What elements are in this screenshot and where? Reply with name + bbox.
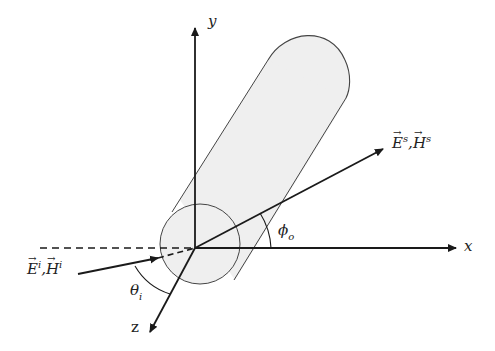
phi-symbol: ϕ [278, 221, 288, 239]
incident-E-superscript: i [38, 259, 41, 270]
scattered-H-symbol: H [413, 136, 426, 151]
y-axis-label: y [208, 14, 216, 29]
scattered-field-label: Es,Hs [392, 136, 431, 151]
incident-field-label: Ei,Hi [27, 262, 62, 277]
incident-H-symbol: H [46, 262, 59, 277]
theta-subscript: i [139, 291, 142, 302]
theta-angle-label: θi [130, 283, 142, 298]
x-axis-label: x [464, 239, 472, 254]
z-axis-label: z [131, 320, 139, 335]
scattering-geometry-svg [0, 0, 495, 351]
incident-H-superscript: i [59, 259, 62, 270]
diagram-canvas: y x z Es,Hs Ei,Hi θi ϕo [0, 0, 495, 351]
phi-angle-label: ϕo [278, 223, 294, 238]
x-label-text: x [464, 237, 472, 255]
cylinder-cross-section [160, 204, 240, 284]
phi-subscript: o [288, 231, 294, 242]
scattered-H-superscript: s [426, 133, 431, 144]
z-label-text: z [131, 318, 139, 336]
incident-E-symbol: E [27, 262, 38, 277]
y-label-text: y [208, 12, 216, 30]
theta-symbol: θ [130, 281, 139, 299]
scattered-E-superscript: s [403, 133, 408, 144]
scattered-E-symbol: E [392, 136, 403, 151]
incident-wave-arrow [78, 258, 158, 274]
